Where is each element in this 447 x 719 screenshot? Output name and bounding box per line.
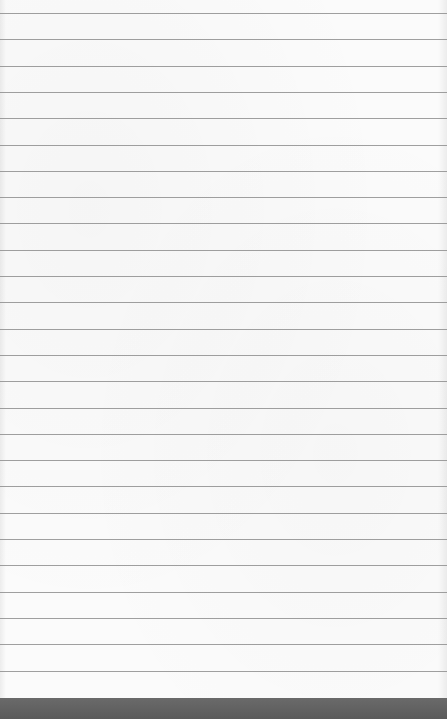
ruled-line — [0, 329, 447, 330]
lined-paper — [0, 0, 447, 698]
ruled-line — [0, 565, 447, 566]
ruled-line — [0, 66, 447, 67]
ruled-line — [0, 250, 447, 251]
ruled-line — [0, 644, 447, 645]
ruled-line — [0, 197, 447, 198]
ruled-line — [0, 592, 447, 593]
ruled-line — [0, 434, 447, 435]
ruled-line — [0, 13, 447, 14]
ruled-line — [0, 223, 447, 224]
bottom-shadow-band — [0, 698, 447, 719]
ruled-line — [0, 118, 447, 119]
ruled-line — [0, 276, 447, 277]
ruled-line — [0, 145, 447, 146]
ruled-line — [0, 39, 447, 40]
ruled-line — [0, 171, 447, 172]
ruled-line — [0, 460, 447, 461]
ruled-line — [0, 408, 447, 409]
ruled-line — [0, 92, 447, 93]
ruled-line — [0, 671, 447, 672]
ruled-line — [0, 302, 447, 303]
ruled-line — [0, 486, 447, 487]
ruled-line — [0, 539, 447, 540]
ruled-line — [0, 618, 447, 619]
ruled-line — [0, 355, 447, 356]
ruled-line — [0, 513, 447, 514]
ruled-line — [0, 381, 447, 382]
